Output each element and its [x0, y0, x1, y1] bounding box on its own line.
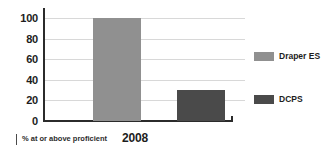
legend-item-draper-es[interactable]: Draper ES: [254, 50, 320, 62]
y-tick-label-0: 0: [4, 116, 38, 127]
legend-swatch-icon: [254, 95, 274, 104]
y-tick-label-20: 20: [4, 95, 38, 106]
bars-layer: [44, 8, 245, 121]
legend-swatch-icon: [254, 52, 274, 61]
y-tick-label-60: 60: [4, 54, 38, 65]
legend-label: Draper ES: [279, 51, 320, 61]
legend-item-dcps[interactable]: DCPS: [254, 93, 303, 105]
caption-tick-mark: [16, 134, 17, 145]
category-label-2008: 2008: [122, 131, 148, 145]
legend: Draper ESDCPS: [254, 0, 330, 154]
y-tick-label-100: 100: [4, 13, 38, 24]
bar-draper-es[interactable]: [93, 18, 141, 121]
y-tick-label-40: 40: [4, 75, 38, 86]
bar-chart: 020406080100 % at or above proficient 20…: [0, 0, 330, 154]
legend-label: DCPS: [279, 94, 303, 104]
bar-dcps[interactable]: [177, 90, 225, 121]
axis-caption-label: % at or above proficient: [22, 134, 107, 144]
y-tick-label-80: 80: [4, 34, 38, 45]
